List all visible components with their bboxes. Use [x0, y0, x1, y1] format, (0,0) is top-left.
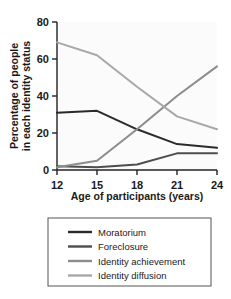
legend-label-moratorium: Moratorium: [98, 227, 146, 238]
x-tick-label-12: 12: [51, 179, 63, 191]
y-axis-ticks: [52, 22, 57, 170]
line-chart: 020406080 1215182124 Age of participants…: [0, 0, 231, 299]
y-tick-label-60: 60: [37, 53, 49, 65]
legend-label-foreclosure: Foreclosure: [98, 241, 148, 252]
chart-figure: 020406080 1215182124 Age of participants…: [0, 0, 231, 299]
plot-area-background: [57, 22, 217, 170]
y-tick-label-40: 40: [37, 90, 49, 102]
y-axis-title-line1: Percentage of people: [8, 43, 20, 149]
y-tick-label-0: 0: [43, 164, 49, 176]
y-axis-title-line2: in each identity status: [20, 41, 32, 151]
y-tick-label-20: 20: [37, 127, 49, 139]
y-axis-tick-labels: 020406080: [37, 16, 49, 176]
x-axis-title: Age of participants (years): [71, 190, 203, 202]
y-tick-label-80: 80: [37, 16, 49, 28]
legend-label-identity-diffusion: Identity diffusion: [98, 270, 166, 281]
x-axis-ticks: [57, 170, 217, 175]
x-tick-label-24: 24: [211, 179, 224, 191]
legend-label-identity-achievement: Identity achievement: [98, 256, 185, 267]
